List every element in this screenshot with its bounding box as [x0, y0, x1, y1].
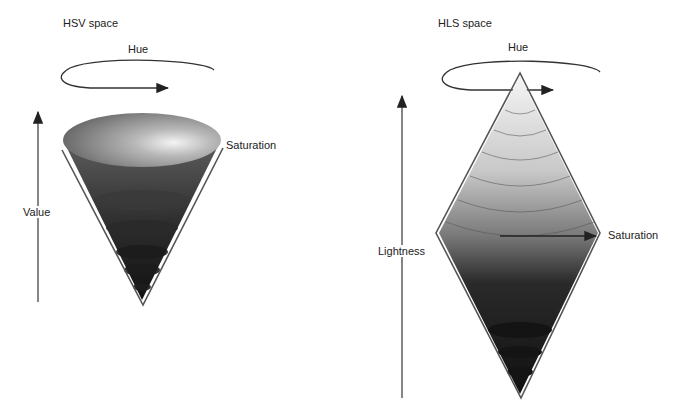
hsv-value-label: Value	[23, 206, 50, 218]
hls-saturation-label: Saturation	[608, 229, 658, 241]
hsv-hue-label: Hue	[128, 43, 148, 55]
hls-diagram	[402, 61, 600, 398]
hsv-top-disc	[63, 113, 221, 167]
hsv-saturation-label: Saturation	[226, 139, 276, 151]
color-space-diagram	[0, 0, 690, 416]
hls-title: HLS space	[438, 17, 492, 29]
hls-hue-label: Hue	[508, 41, 528, 53]
hsv-hue-arrow	[61, 60, 214, 88]
hls-lightness-label: Lightness	[378, 245, 425, 257]
hsv-diagram	[38, 60, 223, 305]
hsv-title: HSV space	[63, 17, 118, 29]
